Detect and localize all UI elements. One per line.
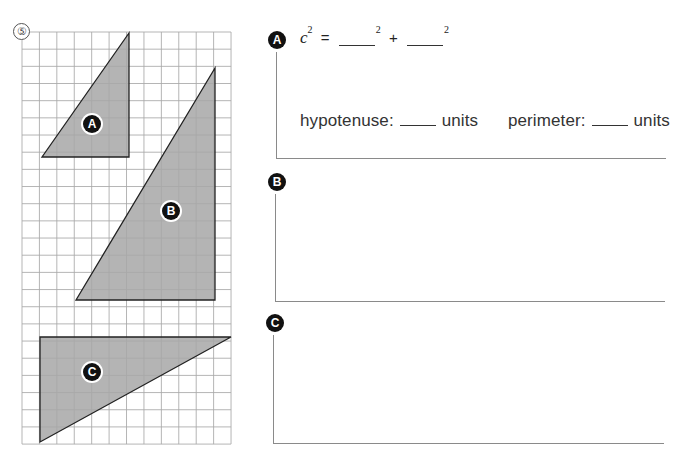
leg-2-blank[interactable] bbox=[407, 44, 443, 46]
hypotenuse-label: hypotenuse: bbox=[300, 111, 394, 130]
hypotenuse-answer: hypotenuse:units bbox=[300, 111, 478, 131]
answer-area-c[interactable] bbox=[273, 335, 664, 444]
exponent: 2 bbox=[444, 24, 449, 35]
perimeter-answer: perimeter:units bbox=[508, 111, 670, 131]
exponent: 2 bbox=[308, 24, 313, 35]
pythagorean-equation: c2 = 2 + 2 bbox=[300, 27, 449, 48]
leg-1-blank[interactable] bbox=[339, 44, 375, 46]
figure-label-b: B bbox=[162, 202, 180, 220]
hypotenuse-blank[interactable] bbox=[400, 124, 436, 126]
section-label-c: C bbox=[266, 314, 284, 332]
answer-area-b[interactable] bbox=[275, 194, 665, 302]
figure-label-c: C bbox=[83, 363, 101, 381]
exponent: 2 bbox=[376, 24, 381, 35]
problem-number: ⑤ bbox=[13, 23, 30, 40]
section-label-a: A bbox=[268, 31, 286, 49]
hypotenuse-unit: units bbox=[442, 111, 478, 130]
grid-figure bbox=[0, 0, 250, 462]
perimeter-label: perimeter: bbox=[508, 111, 586, 130]
plus-sign: + bbox=[389, 29, 398, 46]
section-label-b: B bbox=[268, 173, 286, 191]
figure-label-a: A bbox=[83, 115, 101, 133]
perimeter-blank[interactable] bbox=[592, 124, 628, 126]
equals-sign: = bbox=[321, 29, 330, 46]
triangle-fills bbox=[40, 33, 231, 442]
perimeter-unit: units bbox=[634, 111, 670, 130]
answer-area-a[interactable] bbox=[276, 52, 666, 159]
equation-variable: c bbox=[300, 28, 308, 47]
